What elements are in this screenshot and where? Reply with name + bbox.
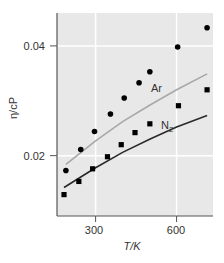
data-point-n2 <box>204 87 209 92</box>
data-point-n2 <box>105 154 110 159</box>
series-label-n2-sub: 2 <box>169 125 174 134</box>
series-label-ar: Ar <box>151 82 162 94</box>
data-point-n2 <box>119 142 124 147</box>
data-point-ar <box>175 44 181 50</box>
series-label-n2-main: N <box>161 119 169 131</box>
data-point-ar <box>92 129 98 135</box>
data-point-n2 <box>176 103 181 108</box>
data-point-ar <box>204 25 210 31</box>
data-point-n2 <box>132 130 137 135</box>
data-point-ar <box>121 95 127 101</box>
data-point-n2 <box>61 192 66 197</box>
data-point-ar <box>108 111 114 117</box>
data-point-ar <box>63 168 69 174</box>
data-point-n2 <box>90 166 95 171</box>
x-tick-label-600: 600 <box>167 224 185 236</box>
x-tick-label-300: 300 <box>85 224 103 236</box>
viscosity-chart: 0.04 0.02 300 600 T/K η/cP Ar N2 <box>0 0 224 263</box>
y-tick-label-0.02: 0.02 <box>24 150 45 162</box>
data-point-n2 <box>76 179 81 184</box>
y-tick-label-0.04: 0.04 <box>24 40 45 52</box>
data-point-n2 <box>147 121 152 126</box>
data-point-ar <box>78 147 84 153</box>
x-axis-label: T/K <box>123 240 141 252</box>
data-point-ar <box>147 69 153 75</box>
data-point-ar <box>136 80 142 86</box>
y-axis-label: η/cP <box>7 97 19 119</box>
